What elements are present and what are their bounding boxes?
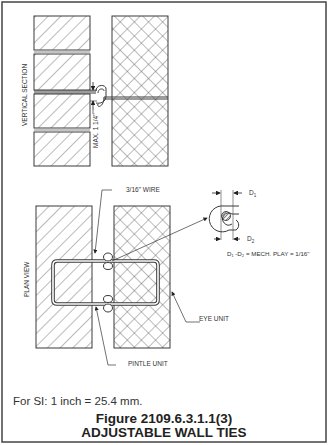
diagram-canvas: MAX. 1 1/4" VERTICAL SECTION 3/16" WIRE … (0, 0, 328, 445)
dimension-label: MAX. 1 1/4" (92, 113, 99, 148)
pintle-unit-leader (96, 307, 116, 365)
brick-wythe-plan (36, 206, 92, 348)
pintle-unit-callout: PINTLE UNIT (128, 360, 168, 367)
vertical-section-label: VERTICAL SECTION (21, 64, 28, 126)
block-wythe-plan (114, 206, 170, 348)
figure-title: ADJUSTABLE WALL TIES (0, 425, 328, 440)
block-wythe-vertical (112, 16, 168, 166)
plan-view: 3/16" WIRE EYE UNIT PINTLE UNIT PLAN VIE… (23, 186, 229, 367)
figure-number: Figure 2109.6.3.1.1(3) (0, 411, 328, 426)
d1-label: D1 (249, 189, 257, 198)
vertical-section: MAX. 1 1/4" VERTICAL SECTION (21, 16, 168, 166)
eye-unit-callout: EYE UNIT (199, 315, 229, 322)
dimension-max-spacing (90, 82, 97, 114)
pintle-bar-section (222, 212, 231, 221)
mechanical-play-detail: D1 D2 D₁ -D₂ = MECH. PLAY = 1/16" (209, 189, 309, 257)
wire-leader (95, 190, 112, 253)
eye-unit-leader (172, 292, 200, 322)
si-conversion-note: For SI: 1 inch = 25.4 mm. (13, 395, 142, 407)
plan-view-label: PLAN VIEW (23, 261, 30, 297)
d2-label: D2 (247, 235, 255, 244)
wire-callout: 3/16" WIRE (126, 186, 160, 193)
mech-play-equation: D₁ -D₂ = MECH. PLAY = 1/16" (227, 250, 309, 257)
